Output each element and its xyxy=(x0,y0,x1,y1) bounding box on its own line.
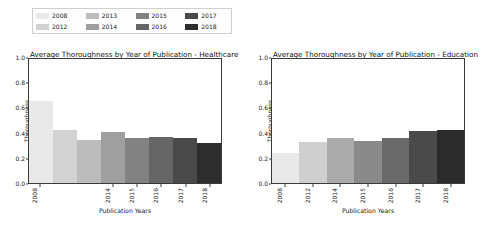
y-tick-label-0.6: 0.6 xyxy=(258,105,268,111)
x-tick-mark-2008 xyxy=(40,184,41,187)
legend-item-2016[interactable]: 2016 xyxy=(136,21,179,32)
y-tick-mark-0.8 xyxy=(269,83,272,84)
legend-item-2008[interactable]: 2008 xyxy=(36,10,79,21)
legend-swatch-2015 xyxy=(136,13,149,19)
x-tick-mark-2014 xyxy=(340,184,341,187)
legend-item-2015[interactable]: 2015 xyxy=(136,10,179,21)
y-tick-mark-0.4 xyxy=(269,133,272,134)
x-tick-label-2016: 2016 xyxy=(154,188,160,203)
y-tick-label-0.8: 0.8 xyxy=(258,80,268,86)
x-tick-mark-2016 xyxy=(161,184,162,187)
bar-2017[interactable] xyxy=(409,131,436,183)
y-tick-label-0.0: 0.0 xyxy=(15,181,25,187)
x-tick-label-2008: 2008 xyxy=(277,188,283,203)
x-tick-mark-2015 xyxy=(368,184,369,187)
plot-frame-healthcare xyxy=(28,58,222,184)
y-tick-mark-0.6 xyxy=(26,108,29,109)
bar-2014[interactable] xyxy=(327,138,354,183)
y-tick-mark-1.0 xyxy=(26,58,29,59)
x-tick-label-2018: 2018 xyxy=(444,188,450,203)
plot-area-healthcare: Thoroughness 0.00.20.40.60.81.0200820142… xyxy=(28,58,222,184)
x-tick-label-2012: 2012 xyxy=(305,188,311,203)
bar-2013[interactable] xyxy=(77,140,101,183)
bar-2016[interactable] xyxy=(382,138,409,183)
bar-2018[interactable] xyxy=(437,130,464,183)
x-tick-mark-2008 xyxy=(284,184,285,187)
y-tick-label-0.4: 0.4 xyxy=(15,131,25,137)
bar-series-healthcare xyxy=(29,59,221,183)
x-tick-label-2017: 2017 xyxy=(178,188,184,203)
chart-panel-healthcare: 20082012201320142015201620172018 Average… xyxy=(0,0,242,228)
legend-swatch-2008 xyxy=(36,13,49,19)
x-tick-mark-2017 xyxy=(185,184,186,187)
x-tick-mark-2014 xyxy=(112,184,113,187)
x-tick-label-2008: 2008 xyxy=(32,188,38,203)
x-tick-mark-2016 xyxy=(395,184,396,187)
legend-item-2012[interactable]: 2012 xyxy=(36,21,79,32)
legend-label-2018: 2018 xyxy=(201,24,216,30)
y-tick-mark-0.0 xyxy=(269,184,272,185)
y-tick-label-0.4: 0.4 xyxy=(258,131,268,137)
plot-area-education: Thoroughness 0.00.20.40.60.81.0200820122… xyxy=(271,58,465,184)
bar-series-education xyxy=(272,59,464,183)
x-tick-label-2015: 2015 xyxy=(129,188,135,203)
legend-label-2017: 2017 xyxy=(201,13,216,19)
y-tick-label-0.6: 0.6 xyxy=(15,105,25,111)
y-tick-mark-0.2 xyxy=(26,158,29,159)
x-tick-mark-2018 xyxy=(451,184,452,187)
legend-swatch-2017 xyxy=(185,13,198,19)
bar-2015[interactable] xyxy=(125,138,149,183)
y-tick-mark-0.6 xyxy=(269,108,272,109)
legend-label-2016: 2016 xyxy=(152,24,167,30)
plot-frame-education xyxy=(271,58,465,184)
y-tick-label-0.0: 0.0 xyxy=(258,181,268,187)
legend-label-2013: 2013 xyxy=(102,13,117,19)
x-axis-label-education: Publication Years xyxy=(271,208,465,214)
x-tick-label-2018: 2018 xyxy=(202,188,208,203)
legend-swatch-2013 xyxy=(86,13,99,19)
legend-label-2014: 2014 xyxy=(102,24,117,30)
x-tick-mark-2017 xyxy=(423,184,424,187)
bar-2008[interactable] xyxy=(29,101,53,183)
x-tick-mark-2018 xyxy=(209,184,210,187)
bar-2015[interactable] xyxy=(354,141,381,183)
bar-2012[interactable] xyxy=(53,130,77,183)
legend-label-2015: 2015 xyxy=(152,13,167,19)
legend-swatch-2012 xyxy=(36,24,49,30)
x-tick-label-2014: 2014 xyxy=(105,188,111,203)
y-tick-mark-0.4 xyxy=(26,133,29,134)
legend-swatch-2016 xyxy=(136,24,149,30)
y-tick-label-0.2: 0.2 xyxy=(258,156,268,162)
y-tick-mark-0.2 xyxy=(269,158,272,159)
x-tick-label-2016: 2016 xyxy=(388,188,394,203)
legend-item-2017[interactable]: 2017 xyxy=(185,10,228,21)
bar-2008[interactable] xyxy=(272,153,299,183)
bar-2014[interactable] xyxy=(101,132,125,183)
x-tick-label-2014: 2014 xyxy=(333,188,339,203)
x-tick-label-2017: 2017 xyxy=(416,188,422,203)
legend-swatch-2014 xyxy=(86,24,99,30)
legend-label-2012: 2012 xyxy=(52,24,67,30)
y-tick-label-1.0: 1.0 xyxy=(15,55,25,61)
legend-label-2008: 2008 xyxy=(52,13,67,19)
x-tick-mark-2012 xyxy=(312,184,313,187)
y-tick-mark-1.0 xyxy=(269,58,272,59)
bar-2016[interactable] xyxy=(149,137,173,183)
x-tick-label-2015: 2015 xyxy=(360,188,366,203)
x-axis-label-healthcare: Publication Years xyxy=(28,208,222,214)
bar-2017[interactable] xyxy=(173,138,197,183)
y-tick-label-0.8: 0.8 xyxy=(15,80,25,86)
bar-2018[interactable] xyxy=(197,143,221,183)
chart-panel-education: 2008201220142015201620172018 Average Tho… xyxy=(243,0,485,228)
y-tick-label-1.0: 1.0 xyxy=(258,55,268,61)
y-tick-mark-0.8 xyxy=(26,83,29,84)
legend-swatch-2018 xyxy=(185,24,198,30)
legend-item-2013[interactable]: 2013 xyxy=(86,10,129,21)
x-tick-mark-2015 xyxy=(137,184,138,187)
legend-healthcare: 20082012201320142015201620172018 xyxy=(32,8,232,34)
y-tick-label-0.2: 0.2 xyxy=(15,156,25,162)
bar-2012[interactable] xyxy=(299,142,326,183)
y-tick-mark-0.0 xyxy=(26,184,29,185)
legend-item-2014[interactable]: 2014 xyxy=(86,21,129,32)
legend-item-2018[interactable]: 2018 xyxy=(185,21,228,32)
